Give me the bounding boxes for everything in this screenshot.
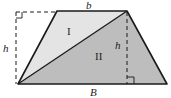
label-region-1: I — [67, 26, 71, 37]
trapezoid-diagram — [0, 0, 171, 98]
label-height-left: h — [3, 43, 9, 54]
label-top-base: b — [86, 0, 92, 11]
label-region-2: II — [95, 51, 102, 62]
label-bottom-base: B — [90, 87, 97, 98]
label-height-right: h — [115, 40, 121, 51]
right-angle-marker-top-left — [16, 12, 22, 18]
